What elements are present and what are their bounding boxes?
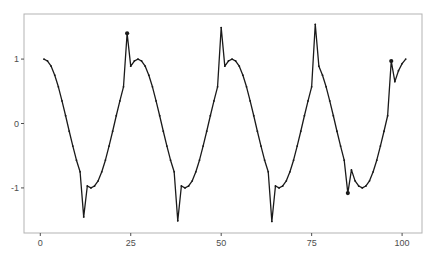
data-point: [199, 159, 201, 161]
data-point: [300, 130, 302, 132]
data-point: [387, 115, 389, 117]
data-point: [358, 185, 360, 187]
highlighted-point: [125, 31, 129, 35]
data-point: [90, 187, 92, 189]
data-point: [54, 74, 56, 76]
y-tick-label: 1: [14, 54, 19, 64]
data-point: [195, 171, 197, 173]
data-point: [235, 60, 237, 62]
data-point: [170, 159, 172, 161]
data-point: [231, 58, 233, 60]
data-point: [394, 81, 396, 83]
data-point: [271, 221, 273, 223]
line-chart: -101 0255075100: [0, 0, 438, 255]
data-point: [177, 220, 179, 222]
highlighted-point: [389, 59, 393, 63]
data-point: [123, 86, 125, 88]
data-point: [141, 60, 143, 62]
data-point: [65, 115, 67, 117]
data-point: [166, 145, 168, 147]
data-point: [206, 130, 208, 132]
data-point: [119, 100, 121, 102]
data-point: [173, 171, 175, 173]
data-point: [267, 171, 269, 173]
data-point: [228, 60, 230, 62]
x-tick-label: 0: [38, 238, 43, 248]
data-point: [152, 86, 154, 88]
data-point: [188, 185, 190, 187]
data-point: [202, 145, 204, 147]
data-point: [332, 115, 334, 117]
data-point: [209, 115, 211, 117]
data-point: [340, 145, 342, 147]
data-point: [351, 169, 353, 171]
data-point: [365, 185, 367, 187]
data-point: [238, 65, 240, 67]
data-point: [285, 180, 287, 182]
data-point: [278, 187, 280, 189]
x-tick-label: 50: [216, 238, 226, 248]
data-point: [213, 100, 215, 102]
data-point: [325, 86, 327, 88]
x-tick-label: 25: [126, 238, 136, 248]
data-point: [184, 187, 186, 189]
data-point: [369, 180, 371, 182]
data-point: [97, 180, 99, 182]
data-point: [108, 145, 110, 147]
x-tick-label: 100: [395, 238, 410, 248]
data-point: [137, 58, 139, 60]
data-point: [162, 130, 164, 132]
data-point: [293, 159, 295, 161]
data-point: [47, 60, 49, 62]
data-point: [322, 74, 324, 76]
data-point: [253, 115, 255, 117]
data-point: [376, 159, 378, 161]
data-point: [112, 130, 114, 132]
data-point: [343, 159, 345, 161]
data-point: [256, 130, 258, 132]
y-axis: -101: [11, 54, 24, 193]
data-point: [133, 60, 135, 62]
highlighted-point: [346, 191, 350, 195]
data-point: [242, 74, 244, 76]
data-point: [86, 185, 88, 187]
data-point: [61, 100, 63, 102]
data-point: [68, 130, 70, 132]
data-point: [144, 65, 146, 67]
y-tick-label: -1: [11, 183, 19, 193]
data-point: [304, 115, 306, 117]
data-point: [289, 171, 291, 173]
data-point: [372, 171, 374, 173]
y-tick-label: 0: [14, 119, 19, 129]
data-point: [217, 86, 219, 88]
data-point: [329, 100, 331, 102]
data-point: [311, 86, 313, 88]
data-point: [275, 185, 277, 187]
data-point: [148, 74, 150, 76]
data-point: [101, 171, 103, 173]
data-point: [72, 145, 74, 147]
data-point: [79, 171, 81, 173]
data-point: [318, 65, 320, 67]
data-point: [398, 70, 400, 72]
data-point: [264, 159, 266, 161]
data-point: [115, 115, 117, 117]
data-point: [43, 58, 45, 60]
data-point: [191, 180, 193, 182]
data-point: [379, 145, 381, 147]
data-point: [354, 180, 356, 182]
data-point: [155, 100, 157, 102]
data-point: [83, 216, 85, 218]
data-point: [401, 63, 403, 65]
data-point: [57, 86, 59, 88]
data-point: [383, 130, 385, 132]
data-point: [76, 159, 78, 161]
data-point: [361, 187, 363, 189]
data-point: [296, 145, 298, 147]
data-point: [260, 145, 262, 147]
data-point: [246, 86, 248, 88]
x-axis: 0255075100: [38, 233, 410, 248]
data-point: [282, 185, 284, 187]
data-point: [307, 100, 309, 102]
data-point: [105, 159, 107, 161]
